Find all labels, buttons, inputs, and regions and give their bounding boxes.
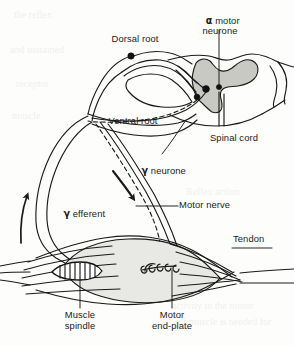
tendon-right-upper [240,269,294,273]
dorsal-root-and-ganglion [88,52,197,121]
muscle-spindle [52,262,102,280]
afferent-fibre-to-spindle [36,116,88,270]
dorsal-root-sleeve-lower [92,72,122,121]
cord-dorsal-outline [168,54,278,62]
cord-ventral-outline [170,114,262,126]
spinal-cord-cross-section [168,54,294,126]
afferent-direction-arrow [21,196,27,243]
nerve-trunk-lumen [126,74,192,107]
tendon-left-mid [0,272,30,273]
cord-right-margin [278,62,287,104]
tendon-left-upper [0,261,30,266]
tendon-left-lower [0,280,30,285]
cord-right-margin-inner [270,66,277,107]
grey-matter [192,59,258,113]
efferent-direction-arrow [113,171,133,198]
dorsal-root-sleeve-upper [88,56,131,114]
ganglion-inner-loop [124,65,196,92]
reflex-arc-diagram [0,0,294,346]
